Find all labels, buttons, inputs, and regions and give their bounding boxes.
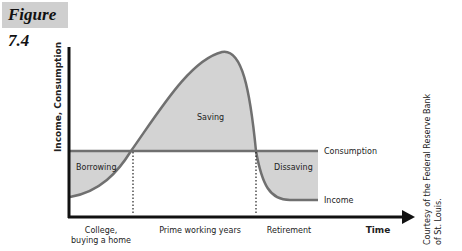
phase-label-college-line1: College, xyxy=(85,226,117,235)
borrowing-region xyxy=(70,151,131,197)
y-axis-label: Income, Consumption xyxy=(53,42,63,152)
saving-region xyxy=(131,52,256,151)
x-axis-label: Time xyxy=(366,225,391,235)
income-series-label: Income xyxy=(324,196,354,205)
saving-label: Saving xyxy=(197,113,224,122)
phase-label-retirement: Retirement xyxy=(267,226,311,235)
credit-line-2: of St. Louis. xyxy=(434,198,443,245)
lifecycle-chart: Income, Consumption Borrowing Saving Dis… xyxy=(0,0,462,251)
phase-label-prime: Prime working years xyxy=(159,226,241,235)
consumption-series-label: Consumption xyxy=(324,147,377,156)
dissaving-region xyxy=(256,151,318,200)
phase-label-college-line2: buying a home xyxy=(71,236,131,245)
credit-line-1: Courtesy of the Federal Reserve Bank xyxy=(423,94,432,245)
x-axis-arrow-icon xyxy=(402,210,415,224)
dissaving-label: Dissaving xyxy=(274,163,313,172)
borrowing-label: Borrowing xyxy=(76,163,116,172)
